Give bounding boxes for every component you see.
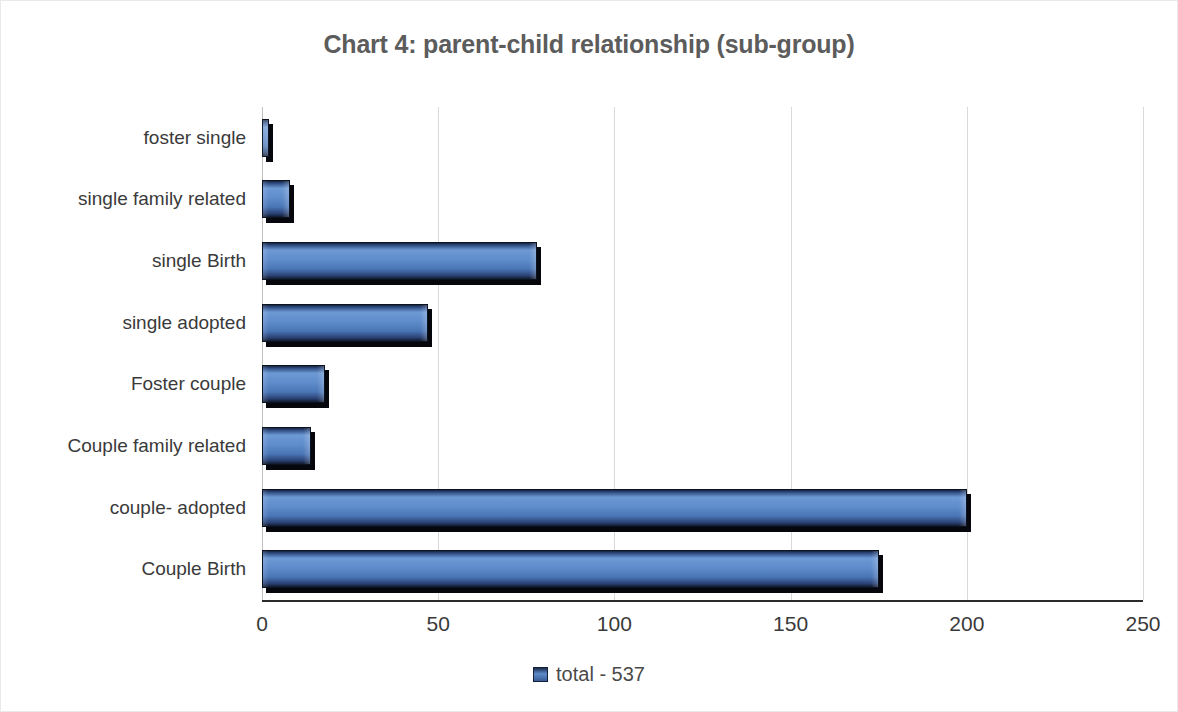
bar[interactable] bbox=[262, 304, 428, 342]
category-label: single family related bbox=[78, 188, 246, 210]
bar-face bbox=[262, 304, 428, 342]
x-axis-line bbox=[262, 600, 1143, 602]
bar[interactable] bbox=[262, 180, 290, 218]
chart-title: Chart 4: parent-child relationship (sub-… bbox=[0, 30, 1178, 59]
bar[interactable] bbox=[262, 365, 325, 403]
category-label: single adopted bbox=[122, 312, 246, 334]
category-label: single Birth bbox=[152, 250, 246, 272]
bar-row: Foster couple bbox=[262, 354, 1143, 416]
bar-row: single Birth bbox=[262, 230, 1143, 292]
bar[interactable] bbox=[262, 242, 537, 280]
bar-row: Couple family related bbox=[262, 415, 1143, 477]
legend-swatch-icon bbox=[533, 667, 548, 682]
plot-area: foster singlesingle family relatedsingle… bbox=[262, 107, 1143, 600]
category-label: couple- adopted bbox=[110, 497, 246, 519]
x-tick-label: 150 bbox=[773, 612, 808, 636]
bar-face bbox=[262, 119, 269, 157]
bar[interactable] bbox=[262, 427, 311, 465]
category-label: Couple family related bbox=[68, 435, 246, 457]
bar-row: single adopted bbox=[262, 292, 1143, 354]
bar-face bbox=[262, 550, 879, 588]
x-tick-label: 250 bbox=[1125, 612, 1160, 636]
bar-face bbox=[262, 242, 537, 280]
bar-row: Couple Birth bbox=[262, 538, 1143, 600]
x-tick-label: 0 bbox=[256, 612, 268, 636]
x-tick-label: 100 bbox=[597, 612, 632, 636]
category-label: Foster couple bbox=[131, 373, 246, 395]
bar-face bbox=[262, 489, 967, 527]
bar-face bbox=[262, 180, 290, 218]
x-tick-label: 200 bbox=[949, 612, 984, 636]
bar-row: couple- adopted bbox=[262, 477, 1143, 539]
bar[interactable] bbox=[262, 489, 967, 527]
bar-face bbox=[262, 365, 325, 403]
category-label: Couple Birth bbox=[141, 558, 246, 580]
gridline-250 bbox=[1143, 107, 1144, 600]
bar-row: foster single bbox=[262, 107, 1143, 169]
category-label: foster single bbox=[144, 127, 246, 149]
x-tick-label: 50 bbox=[427, 612, 450, 636]
bar[interactable] bbox=[262, 550, 879, 588]
chart-legend: total - 537 bbox=[0, 663, 1178, 686]
bar-face bbox=[262, 427, 311, 465]
legend-label: total - 537 bbox=[556, 663, 645, 686]
bar[interactable] bbox=[262, 119, 269, 157]
chart-container: Chart 4: parent-child relationship (sub-… bbox=[0, 0, 1178, 712]
bar-row: single family related bbox=[262, 169, 1143, 231]
